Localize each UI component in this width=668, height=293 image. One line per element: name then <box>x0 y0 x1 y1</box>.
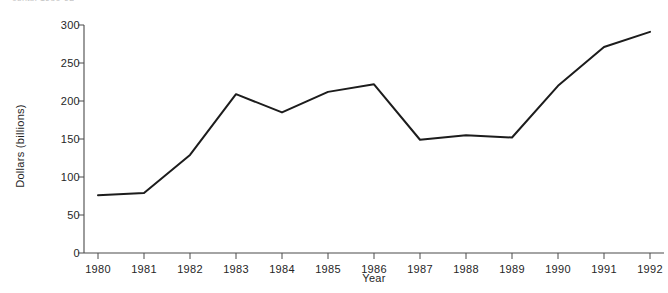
x-tick-label: 1980 <box>85 263 111 275</box>
y-tick-label: 50 <box>38 209 80 221</box>
x-tick-label: 1992 <box>637 263 663 275</box>
chart-axes <box>78 25 664 259</box>
y-tick-label: 300 <box>38 19 80 31</box>
x-tick-label: 1989 <box>499 263 525 275</box>
y-tick-label: 100 <box>38 171 80 183</box>
y-axis-label: Dollars (billions) <box>14 104 26 188</box>
y-axis-label-wrap: Dollars (billions) <box>16 0 17 293</box>
x-tick-label: 1983 <box>223 263 249 275</box>
x-tick-label: 1986 <box>361 263 387 275</box>
x-tick-label: 1991 <box>591 263 617 275</box>
x-tick-label: 1982 <box>177 263 203 275</box>
y-tick-label: 200 <box>38 95 80 107</box>
y-tick-label: 150 <box>38 133 80 145</box>
x-tick-label: 1990 <box>545 263 571 275</box>
x-axis-ticks <box>98 253 650 259</box>
line-chart: Dollars (billions) Year 0501001502002503… <box>0 0 668 293</box>
x-tick-label: 1987 <box>407 263 433 275</box>
y-tick-label: 250 <box>38 57 80 69</box>
data-series-line <box>98 32 650 195</box>
x-tick-label: 1985 <box>315 263 341 275</box>
chart-canvas <box>0 0 668 293</box>
x-tick-label: 1988 <box>453 263 479 275</box>
x-tick-label: 1981 <box>131 263 157 275</box>
y-tick-label: 0 <box>38 247 80 259</box>
x-tick-label: 1984 <box>269 263 295 275</box>
